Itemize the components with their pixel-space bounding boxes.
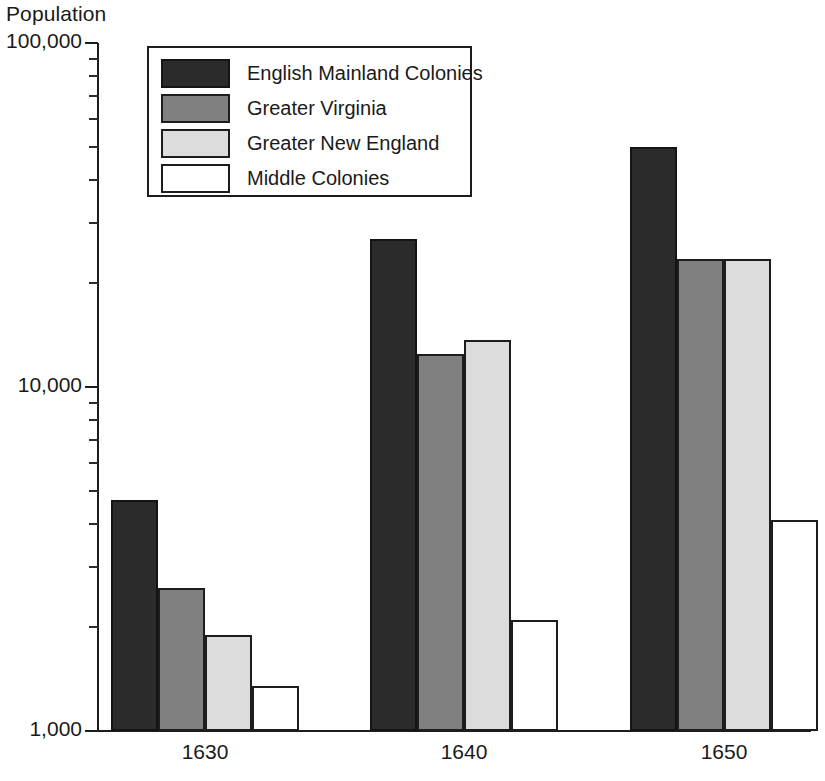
y-tick-minor (89, 402, 98, 404)
legend-label: Greater Virginia (247, 97, 387, 120)
y-tick-minor (89, 566, 98, 568)
legend-label: Greater New England (247, 132, 439, 155)
bar (158, 588, 205, 731)
y-tick-minor (89, 490, 98, 492)
y-tick-minor (89, 523, 98, 525)
chart-canvas: Population 100,00010,0001,000 1630164016… (0, 0, 825, 781)
legend-swatch (161, 94, 230, 123)
legend-swatch (161, 59, 230, 88)
bar (417, 354, 464, 731)
legend-label: English Mainland Colonies (247, 62, 483, 85)
y-tick-major (85, 386, 98, 388)
y-tick-major (85, 42, 98, 44)
x-tick-label: 1630 (182, 740, 229, 764)
y-tick-minor (89, 75, 98, 77)
legend-item: Greater New England (161, 128, 439, 158)
legend-item: Greater Virginia (161, 93, 387, 123)
x-tick-label: 1640 (441, 740, 488, 764)
y-tick-label: 10,000 (18, 373, 82, 397)
bar (111, 500, 158, 731)
legend-swatch (161, 164, 230, 193)
bar (252, 686, 299, 731)
x-tick-label: 1650 (701, 740, 748, 764)
y-tick-minor (89, 118, 98, 120)
y-tick-minor (89, 222, 98, 224)
bar (724, 259, 771, 731)
bar (370, 239, 417, 731)
bar (771, 520, 818, 731)
bar (630, 147, 677, 731)
chart-legend: English Mainland ColoniesGreater Virgini… (147, 46, 472, 197)
y-tick-minor (89, 58, 98, 60)
legend-item: English Mainland Colonies (161, 58, 483, 88)
y-tick-minor (89, 419, 98, 421)
bar (464, 340, 511, 731)
legend-swatch (161, 129, 230, 158)
y-tick-minor (89, 146, 98, 148)
y-tick-minor (89, 626, 98, 628)
y-axis-labels: 100,00010,0001,000 (0, 0, 82, 781)
y-tick-minor (89, 95, 98, 97)
y-tick-minor (89, 282, 98, 284)
bar (205, 635, 252, 731)
y-tick-minor (89, 439, 98, 441)
bar (511, 620, 558, 731)
y-tick-minor (89, 462, 98, 464)
y-tick-minor (89, 179, 98, 181)
y-tick-label: 100,000 (6, 29, 82, 53)
y-tick-label: 1,000 (29, 717, 82, 741)
legend-item: Middle Colonies (161, 163, 389, 193)
legend-label: Middle Colonies (247, 167, 389, 190)
y-tick-major (85, 730, 98, 732)
bar (677, 259, 724, 731)
